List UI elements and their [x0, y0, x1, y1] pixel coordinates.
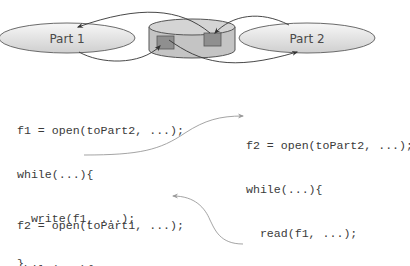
code-line: f2 = open(toPart2, ...);: [246, 139, 410, 154]
part1-label: Part 1: [49, 32, 84, 46]
code-line: while(...){: [246, 183, 410, 198]
part2-label: Part 2: [289, 32, 324, 46]
part2-node: Part 2: [239, 23, 375, 53]
part1-node: Part 1: [0, 23, 135, 53]
slot-right: [204, 33, 221, 46]
code-block-part2: f2 = open(toPart2, ...); while(...){ rea…: [246, 109, 410, 266]
code-block-part1-read: f2 = open(toPart1, ...); while(...){ rea…: [17, 189, 184, 266]
code-line: read(f1, ...);: [246, 227, 410, 242]
code-line: f2 = open(toPart1, ...);: [17, 219, 184, 234]
code-line: f1 = open(toPart2, ...);: [17, 124, 184, 139]
storage-cylinder-icon: [149, 19, 235, 58]
code-line: while(...){: [17, 168, 184, 183]
